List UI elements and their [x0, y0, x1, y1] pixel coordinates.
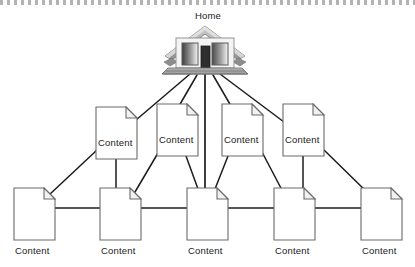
document-label-bottom-3: Content — [188, 245, 223, 256]
document-node-middle-3[interactable] — [222, 104, 263, 156]
document-node-bottom-5[interactable] — [361, 188, 402, 240]
connector-middle-3-to-bottom-4 — [262, 152, 283, 192]
connector-middle-2-to-bottom-3 — [186, 156, 198, 189]
document-node-middle-4[interactable] — [283, 104, 324, 156]
document-fold-corner — [313, 104, 324, 115]
document-label-middle-3: Content — [224, 134, 259, 145]
document-fold-corner — [391, 188, 402, 199]
document-node-middle-1[interactable] — [96, 107, 137, 159]
middle-row-documents — [96, 104, 324, 159]
document-fold-corner — [44, 188, 55, 199]
house-icon — [162, 26, 248, 74]
document-node-middle-2[interactable] — [157, 104, 198, 156]
document-node-bottom-2[interactable] — [100, 188, 141, 240]
document-fold-corner — [217, 188, 228, 199]
document-fold-corner — [126, 107, 137, 118]
document-fold-corner — [187, 104, 198, 115]
document-node-bottom-1[interactable] — [14, 188, 55, 240]
document-node-bottom-3[interactable] — [187, 188, 228, 240]
house-window-left — [182, 43, 198, 65]
connector-middle-2-to-bottom-2 — [135, 153, 158, 192]
site-map-diagram: Home Content Content Content Content Con… — [0, 0, 415, 267]
house-window-right — [212, 43, 228, 65]
connector-middle-3-to-bottom-3 — [215, 156, 228, 189]
document-fold-corner — [304, 188, 315, 199]
document-label-middle-1: Content — [98, 137, 133, 148]
document-label-bottom-1: Content — [15, 245, 50, 256]
house-foundation — [162, 68, 248, 74]
document-node-bottom-4[interactable] — [274, 188, 315, 240]
connector-middle-1-to-bottom-1 — [49, 150, 97, 195]
document-label-bottom-2: Content — [101, 245, 136, 256]
bottom-row-documents — [14, 188, 402, 240]
house-roof-eave-right — [233, 58, 246, 66]
document-label-middle-2: Content — [159, 134, 194, 145]
house-roof-eave-left — [164, 58, 177, 66]
diagram-vector-layer — [0, 0, 415, 267]
house-door — [201, 46, 210, 68]
document-label-bottom-4: Content — [275, 245, 310, 256]
home-label: Home — [186, 10, 230, 21]
document-fold-corner — [130, 188, 141, 199]
document-label-middle-4: Content — [285, 134, 320, 145]
document-label-bottom-5: Content — [362, 245, 397, 256]
